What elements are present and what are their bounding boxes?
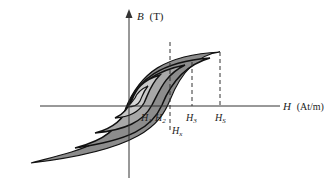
y-axis-label: B (T) [137,10,164,23]
y-axis-arrow-icon [126,9,133,18]
x-axis-label: H (At/m) [282,100,324,113]
hysteresis-diagram: B (T) H (At/m) H1 H2 Hx H3 HS [0,0,334,193]
marker-hx: Hx [171,125,183,138]
marker-h3: H3 [185,112,197,125]
marker-hs: HS [214,112,226,125]
